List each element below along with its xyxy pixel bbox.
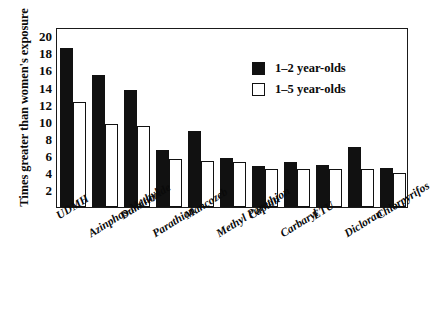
y-tick-label: 6 [22, 150, 52, 163]
bar-1-2-year-olds [284, 162, 297, 207]
legend-swatch-light [252, 83, 265, 96]
plot-area [56, 28, 408, 208]
y-tick-label: 14 [22, 82, 52, 95]
bar-1-2-year-olds [92, 75, 105, 207]
bar-group [220, 29, 246, 207]
legend-swatch-dark [252, 62, 265, 75]
y-tick-label: 12 [22, 99, 52, 112]
bar-group [252, 29, 278, 207]
bar-group [124, 29, 150, 207]
bar-1-2-year-olds [124, 90, 137, 207]
y-tick-label: 4 [22, 167, 52, 180]
bar-1-2-year-olds [348, 147, 361, 207]
legend-label: 1–2 year-olds [275, 61, 346, 76]
x-axis-tick-labels: UDMHAzinphos-MethylDaminozideParathionMa… [0, 208, 441, 310]
bar-group [60, 29, 86, 207]
bars-layer [57, 29, 407, 207]
bar-group [316, 29, 342, 207]
legend: 1–2 year-olds1–5 year-olds [252, 58, 346, 100]
legend-item: 1–5 year-olds [252, 79, 346, 100]
legend-label: 1–5 year-olds [275, 82, 346, 97]
bar-group [156, 29, 182, 207]
bar-1-5-year-olds [233, 162, 246, 207]
bar-1-5-year-olds [105, 124, 118, 207]
bar-1-5-year-olds [169, 159, 182, 207]
y-tick-label: 16 [22, 64, 52, 77]
bar-group [284, 29, 310, 207]
y-tick-label: 8 [22, 133, 52, 146]
y-tick-label: 18 [22, 47, 52, 60]
bar-group [92, 29, 118, 207]
bar-group [380, 29, 406, 207]
y-tick-label: 20 [22, 30, 52, 43]
bar-1-2-year-olds [188, 131, 201, 207]
bar-group [188, 29, 214, 207]
bar-1-5-year-olds [297, 169, 310, 207]
y-tick-label: 10 [22, 116, 52, 129]
bar-chart: Times greater than women's exposure 2468… [0, 0, 441, 310]
bar-group [348, 29, 374, 207]
bar-1-2-year-olds [60, 48, 73, 207]
y-tick-label: 2 [22, 184, 52, 197]
legend-item: 1–2 year-olds [252, 58, 346, 79]
bar-1-5-year-olds [361, 169, 374, 207]
